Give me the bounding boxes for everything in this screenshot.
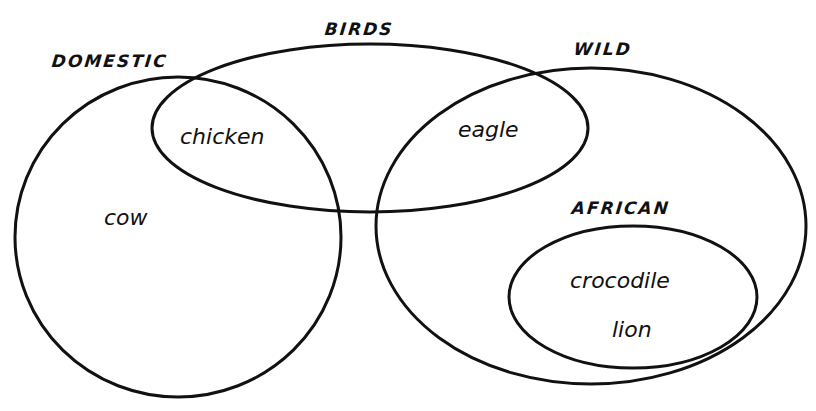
eagle-member-label: eagle: [458, 117, 519, 142]
chicken-member-label: chicken: [180, 124, 264, 149]
domestic-set-ellipse: [15, 77, 341, 397]
birds-set-label: BIRDS: [324, 19, 395, 39]
domestic-set-label: DOMESTIC: [51, 51, 169, 71]
cow-member-label: cow: [104, 205, 148, 230]
wild-set-label: WILD: [573, 39, 633, 59]
wild-set-ellipse: [376, 68, 806, 384]
lion-member-label: lion: [612, 317, 652, 342]
african-set-ellipse: [509, 226, 757, 368]
crocodile-member-label: crocodile: [570, 268, 670, 293]
african-set-label: AFRICAN: [571, 198, 671, 218]
